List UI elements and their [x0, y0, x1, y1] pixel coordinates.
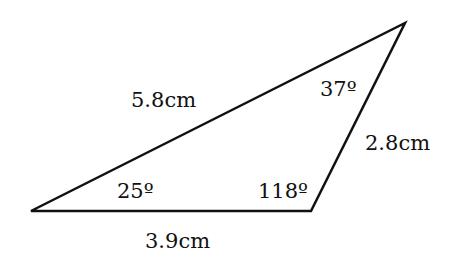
angle-label-c: 37º [320, 77, 357, 101]
triangle-diagram: 5.8cm 2.8cm 3.9cm 25º 118º 37º [0, 0, 458, 264]
side-label-ac: 5.8cm [131, 88, 196, 112]
triangle [31, 23, 405, 211]
angle-label-b: 118º [258, 179, 308, 203]
angle-label-a: 25º [117, 179, 154, 203]
side-label-ab: 3.9cm [145, 229, 210, 253]
side-label-bc: 2.8cm [365, 131, 430, 155]
